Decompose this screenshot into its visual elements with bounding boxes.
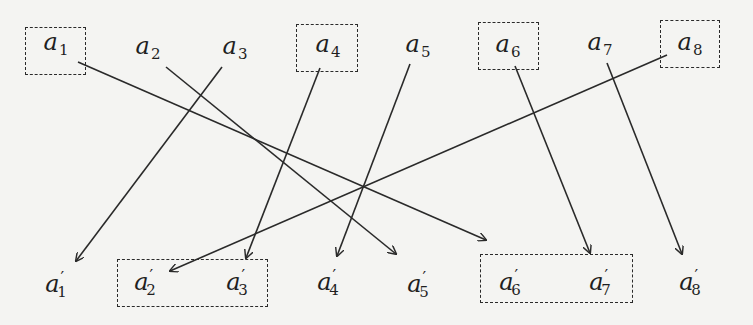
node-prime: ′ <box>150 266 154 285</box>
node-a8p: a′8 <box>679 270 701 298</box>
node-a1p: a′1 <box>45 272 67 300</box>
node-prime: ′ <box>695 266 699 285</box>
node-subscript: 7 <box>603 41 613 59</box>
node-base: a <box>406 30 420 58</box>
node-a5: a5 <box>406 32 431 60</box>
node-a2: a2 <box>136 34 161 62</box>
node-a4: a4 <box>316 32 341 60</box>
node-subscript: 1 <box>59 41 69 59</box>
node-a3p: a′3 <box>226 270 248 298</box>
node-a7: a7 <box>588 30 613 58</box>
mapping-diagram: a1a2a3a4a5a6a7a8 a′1a′2a′3a′4a′5a′6a′7a′… <box>0 0 753 325</box>
node-a5p: a′5 <box>407 272 429 300</box>
node-prime: ′ <box>61 268 65 287</box>
node-prime: ′ <box>242 266 246 285</box>
node-base: a <box>44 28 58 56</box>
node-a6p: a′6 <box>499 270 521 298</box>
node-a6: a6 <box>496 32 521 60</box>
node-base: a <box>678 28 692 56</box>
node-subscript: 5 <box>421 43 431 61</box>
node-a1: a1 <box>44 30 69 58</box>
node-a8: a8 <box>678 30 703 58</box>
node-prime: ′ <box>423 268 427 287</box>
edge-layer <box>0 0 753 325</box>
node-a4p: a′4 <box>317 270 339 298</box>
node-subscript: 6 <box>511 43 521 61</box>
node-base: a <box>136 32 150 60</box>
node-prime: ′ <box>605 266 609 285</box>
node-subscript: 4 <box>331 43 341 61</box>
edge-a5-to-a4p <box>337 64 410 256</box>
node-subscript: 8 <box>693 41 703 59</box>
node-prime: ′ <box>515 266 519 285</box>
node-a2p: a′2 <box>134 270 156 298</box>
node-base: a <box>588 28 602 56</box>
edge-a1-to-a6p <box>78 62 486 240</box>
node-subscript: 3 <box>238 45 248 63</box>
edge-a7-to-a8p <box>607 63 682 254</box>
edge-a8-to-a2p <box>170 55 667 271</box>
node-base: a <box>223 32 237 60</box>
node-base: a <box>316 30 330 58</box>
node-a7p: a′7 <box>589 270 611 298</box>
edge-a3-to-a1p <box>76 67 222 261</box>
node-prime: ′ <box>333 266 337 285</box>
node-a3: a3 <box>223 34 248 62</box>
node-subscript: 2 <box>151 45 161 63</box>
node-base: a <box>496 30 510 58</box>
